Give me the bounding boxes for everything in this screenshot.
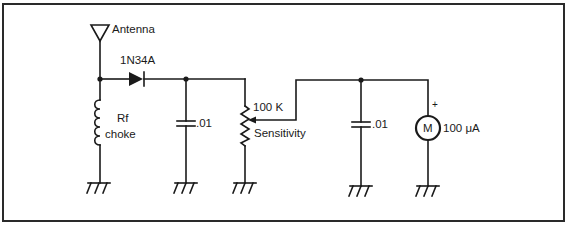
ground-icon: [174, 183, 197, 193]
diode-label: 1N34A: [120, 54, 155, 66]
wire: [361, 80, 428, 116]
potentiometer-label: Sensitivity: [254, 127, 306, 139]
rf-choke-label-line1: Rf: [117, 112, 129, 124]
capacitor-icon: [177, 79, 195, 183]
circuit-schematic: Antenna 1N34A Rf choke .01 100 K Sensiti…: [0, 0, 568, 225]
meter-polarity: +: [432, 99, 438, 110]
diagram-frame: [3, 4, 564, 221]
capacitor-2-label: .01: [372, 118, 388, 130]
ground-icon: [233, 183, 256, 193]
meter-symbol: M: [423, 122, 433, 134]
rf-choke-label-line2: choke: [105, 128, 136, 140]
potentiometer-value: 100 K: [253, 101, 283, 113]
ground-icon: [349, 186, 372, 196]
ground-icon: [416, 186, 439, 196]
capacitor-1-label: .01: [196, 117, 212, 129]
antenna-icon: [91, 25, 109, 79]
antenna-label: Antenna: [112, 23, 155, 35]
meter-value: 100 μA: [443, 122, 480, 134]
capacitor-icon: [352, 80, 370, 186]
inductor-icon: [95, 79, 100, 183]
ground-icon: [87, 183, 110, 193]
diode-icon: [129, 72, 144, 86]
